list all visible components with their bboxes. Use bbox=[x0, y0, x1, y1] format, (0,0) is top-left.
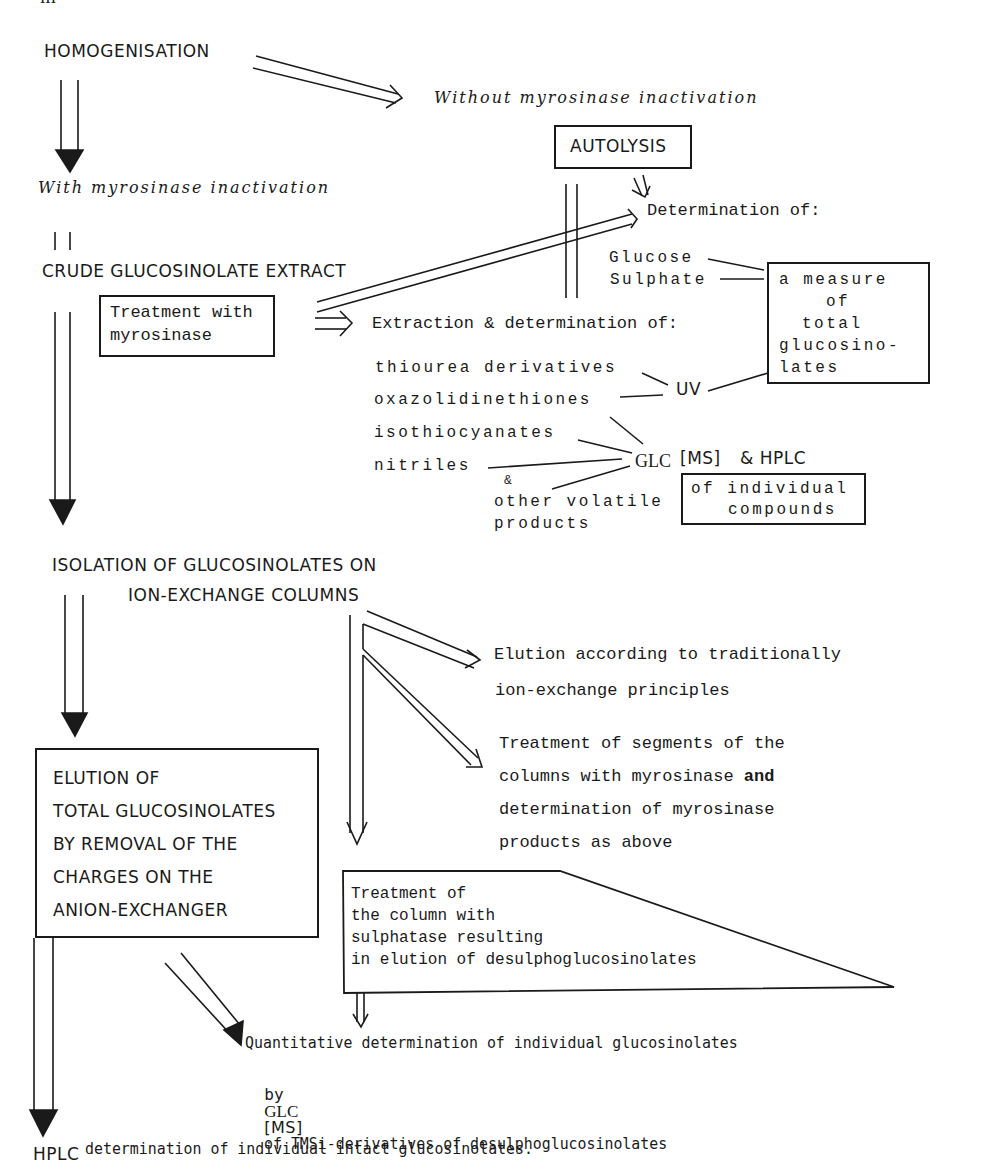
node-crude-extract: CRUDE GLUCOSINOLATE EXTRACT bbox=[42, 263, 346, 280]
label-treatment-segments-2: columns with myrosinase and bbox=[499, 768, 774, 785]
label-hplc-final: determination of individual intact gluco… bbox=[85, 1141, 533, 1157]
elution-line-3: BY REMOVAL OF THE bbox=[53, 836, 238, 853]
label-quantitative-1: Quantitative determination of individual… bbox=[245, 1035, 738, 1051]
label-other-volatile: other volatile bbox=[494, 494, 663, 510]
label-treatment-segments-1: Treatment of segments of the bbox=[499, 735, 785, 752]
label-elution-traditional-2: ion-exchange principles bbox=[495, 682, 730, 699]
sulphatase-line-2: the column with bbox=[351, 908, 495, 924]
label-and-hplc: & HPLC bbox=[740, 450, 806, 467]
arrow-to-determination bbox=[317, 209, 637, 312]
arrow-crude-down bbox=[50, 312, 75, 524]
label-sulphate: Sulphate bbox=[610, 272, 707, 288]
label-glucose: Glucose bbox=[609, 250, 694, 266]
label-isothiocyanates: isothiocyanates bbox=[374, 425, 556, 441]
elution-line-5: ANION-EXCHANGER bbox=[53, 902, 228, 919]
node-homogenisation: HOMOGENISATION bbox=[44, 43, 210, 60]
arrow-to-extraction bbox=[315, 311, 352, 336]
measure-line-4: glucosino- bbox=[779, 338, 900, 354]
label-extraction-determination: Extraction & determination of: bbox=[372, 315, 678, 332]
measure-box: a measure of total glucosino- lates bbox=[767, 262, 930, 384]
sulphatase-line-4: in elution of desulphoglucosinolates bbox=[351, 952, 697, 968]
arrow-homogenisation-down bbox=[56, 80, 83, 172]
individual-compounds-box: of individual compounds bbox=[681, 473, 866, 525]
arrow-autolysis-down bbox=[632, 175, 650, 197]
sulphatase-line-3: sulphatase resulting bbox=[351, 930, 543, 946]
label-uv: UV bbox=[676, 381, 701, 398]
arrow-sulphatase-down bbox=[353, 993, 368, 1027]
label-treatment-segments-4: products as above bbox=[499, 834, 672, 851]
label-ampersand: & bbox=[504, 474, 514, 487]
label-treatment-segments-3: determination of myrosinase bbox=[499, 801, 774, 818]
elution-total-box: ELUTION OF TOTAL GLUCOSINOLATES BY REMOV… bbox=[35, 748, 319, 938]
label-ms: [MS] bbox=[680, 450, 721, 467]
arrow-to-treatment-segments bbox=[363, 649, 482, 767]
treatment-myrosinase-box: Treatment with myrosinase bbox=[99, 295, 275, 357]
label-without-inactivation: Without myrosinase inactivation bbox=[434, 90, 758, 106]
label-products: products bbox=[494, 516, 591, 532]
label-with-inactivation: With myrosinase inactivation bbox=[38, 180, 330, 196]
label-hplc-prefix: HPLC bbox=[33, 1146, 79, 1163]
node-isolation-line-2: ION-EXCHANGE COLUMNS bbox=[128, 587, 359, 604]
label-oxazolidinethiones: oxazolidinethiones bbox=[374, 392, 592, 408]
measure-line-3: total bbox=[802, 316, 863, 332]
label-thiourea: thiourea derivatives bbox=[375, 360, 617, 376]
arrow-to-quantitative bbox=[165, 953, 243, 1045]
arrow-to-hplc bbox=[30, 938, 57, 1136]
autolysis-label: AUTOLYSIS bbox=[570, 138, 667, 155]
node-isolation-line-1: ISOLATION OF GLUCOSINOLATES ON bbox=[52, 557, 377, 574]
label-nitriles: nitriles bbox=[374, 458, 471, 474]
page-number: III bbox=[40, 0, 56, 6]
measure-line-5: lates bbox=[779, 360, 840, 376]
arrow-to-elution-traditional bbox=[363, 611, 480, 668]
arrow-to-without-inactivation bbox=[253, 56, 402, 108]
treatment-line-1: Treatment with bbox=[110, 304, 253, 321]
individual-line-1: of individual bbox=[691, 481, 848, 497]
label-elution-traditional-1: Elution according to traditionally bbox=[494, 646, 841, 663]
elution-line-1: ELUTION OF bbox=[53, 770, 160, 787]
measure-line-2: of bbox=[826, 294, 850, 310]
autolysis-box: AUTOLYSIS bbox=[554, 125, 692, 169]
label-glc: GLC bbox=[635, 452, 671, 470]
arrow-isolation-down bbox=[62, 595, 87, 736]
measure-line-1: a measure bbox=[779, 272, 888, 288]
elution-line-2: TOTAL GLUCOSINOLATES bbox=[53, 803, 276, 820]
treatment-line-2: myrosinase bbox=[110, 327, 212, 344]
individual-line-2: compounds bbox=[728, 502, 837, 518]
label-determination-of: Determination of: bbox=[647, 202, 820, 219]
elution-line-4: CHARGES ON THE bbox=[53, 869, 214, 886]
ms-text: MS bbox=[687, 448, 713, 468]
sulphatase-line-1: Treatment of bbox=[351, 886, 466, 902]
